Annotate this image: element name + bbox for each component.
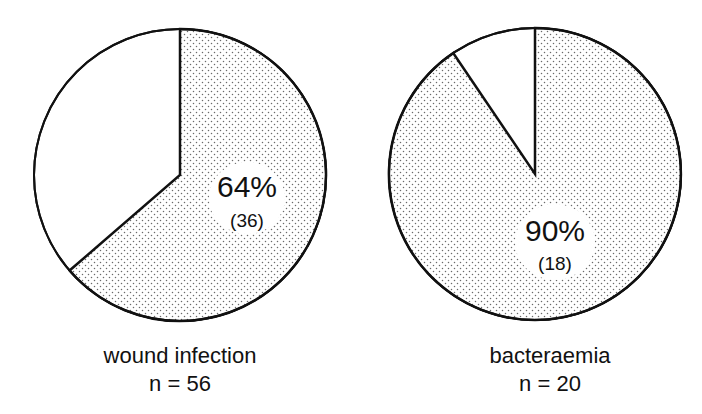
- caption-wound-infection: wound infection n = 56: [80, 342, 280, 398]
- caption-title: bacteraemia: [450, 342, 650, 370]
- percent-label: 64%: [217, 170, 277, 203]
- caption-bacteraemia: bacteraemia n = 20: [450, 342, 650, 398]
- caption-n: n = 20: [450, 370, 650, 398]
- percent-label: 90%: [525, 214, 585, 247]
- pie-bacteraemia: 90% (18): [389, 28, 681, 320]
- count-label: (36): [230, 210, 264, 231]
- pie-wound-infection: 64% (36): [34, 29, 326, 321]
- caption-n: n = 56: [80, 370, 280, 398]
- count-label: (18): [538, 253, 572, 274]
- caption-title: wound infection: [80, 342, 280, 370]
- slice-shaded-90: [389, 28, 681, 320]
